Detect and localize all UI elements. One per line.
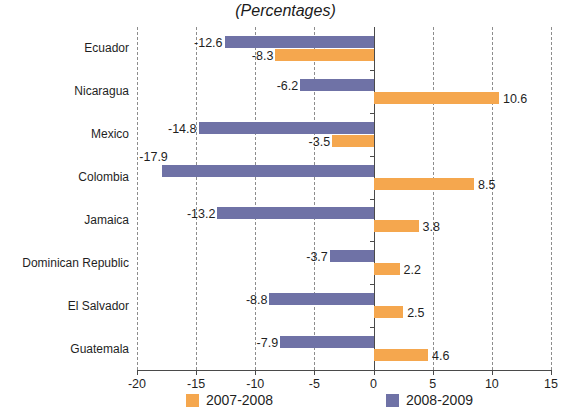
gridline [255, 27, 256, 370]
x-axis-tick [314, 370, 315, 375]
category-label: Mexico [91, 127, 129, 141]
bar-value-label: 4.6 [432, 350, 449, 362]
bar-value-label: -3.7 [306, 251, 328, 263]
bar-value-label: -8.3 [252, 50, 274, 62]
bar-value-label: -12.6 [194, 37, 223, 49]
bar-2008-2009 [162, 165, 374, 177]
x-tick-label: 15 [531, 377, 571, 391]
category-axis: EcuadorNicaraguaMexicoColombiaJamaicaDom… [0, 27, 129, 370]
gridline [433, 27, 434, 370]
x-axis-tick [433, 370, 434, 375]
x-axis-tick [255, 370, 256, 375]
x-tick-label: 5 [413, 377, 453, 391]
gridline [492, 27, 493, 370]
x-tick-label: 0 [354, 377, 394, 391]
zero-axis-line [374, 27, 375, 370]
legend-swatch [386, 394, 399, 407]
axis-separator-tick [370, 70, 374, 71]
category-label: Guatemala [70, 342, 129, 356]
x-tick-label: -20 [117, 377, 157, 391]
axis-separator-tick [370, 113, 374, 114]
axis-separator-tick [370, 199, 374, 200]
x-axis-tick [492, 370, 493, 375]
x-tick-label: 10 [472, 377, 512, 391]
x-tick-label: -10 [235, 377, 275, 391]
x-axis-line [137, 370, 551, 371]
category-label: Jamaica [84, 213, 129, 227]
x-tick-label: -5 [294, 377, 334, 391]
chart-legend: 2007-20082008-2009 [0, 392, 571, 410]
axis-separator-tick [370, 327, 374, 328]
legend-label: 2007-2008 [206, 392, 273, 408]
gridline [196, 27, 197, 370]
bar-2008-2009 [217, 207, 373, 219]
x-axis-tick [137, 370, 138, 375]
bar-2007-2008 [374, 92, 499, 104]
bar-2008-2009 [269, 293, 373, 305]
bar-2007-2008 [374, 263, 400, 275]
bar-2007-2008 [374, 349, 428, 361]
category-label: Ecuador [84, 41, 129, 55]
bar-value-label: 2.5 [407, 307, 424, 319]
category-label: El Salvador [68, 299, 129, 313]
bar-2007-2008 [374, 306, 404, 318]
bar-2007-2008 [332, 135, 373, 147]
bar-value-label: -6.2 [277, 80, 299, 92]
legend-swatch [186, 394, 199, 407]
gridline [137, 27, 138, 370]
bar-2008-2009 [280, 336, 373, 348]
plot-area: -12.6-8.3-6.210.6-14.8-3.5-17.98.5-13.23… [137, 27, 551, 370]
chart-subtitle: (Percentages) [0, 2, 571, 20]
legend-item[interactable]: 2008-2009 [386, 392, 473, 408]
bar-2007-2008 [374, 220, 419, 232]
bar-value-label: 10.6 [503, 93, 527, 105]
legend-item[interactable]: 2007-2008 [186, 392, 273, 408]
bar-value-label: -7.9 [257, 337, 279, 349]
bar-chart: (Percentages) EcuadorNicaraguaMexicoColo… [0, 0, 571, 410]
bar-value-label: 3.8 [423, 221, 440, 233]
bar-value-label: -17.9 [139, 151, 168, 163]
axis-separator-tick [370, 284, 374, 285]
bar-value-label: 2.2 [404, 264, 421, 276]
axis-separator-tick [370, 156, 374, 157]
x-axis-tick [196, 370, 197, 375]
bar-value-label: -14.8 [168, 123, 197, 135]
bar-2008-2009 [225, 36, 374, 48]
category-label: Dominican Republic [22, 256, 129, 270]
category-label: Nicaragua [74, 84, 129, 98]
bar-2008-2009 [330, 250, 374, 262]
bar-2008-2009 [199, 122, 374, 134]
axis-separator-tick [370, 241, 374, 242]
bar-value-label: -8.8 [246, 294, 268, 306]
category-label: Colombia [78, 170, 129, 184]
bar-2007-2008 [374, 178, 475, 190]
bar-2008-2009 [300, 79, 373, 91]
x-axis-tick [374, 370, 375, 375]
bar-value-label: -13.2 [187, 208, 216, 220]
bar-2007-2008 [275, 49, 373, 61]
x-axis-tick [551, 370, 552, 375]
gridline [551, 27, 552, 370]
x-tick-label: -15 [176, 377, 216, 391]
legend-label: 2008-2009 [406, 392, 473, 408]
bar-value-label: 8.5 [478, 179, 495, 191]
bar-value-label: -3.5 [309, 136, 331, 148]
